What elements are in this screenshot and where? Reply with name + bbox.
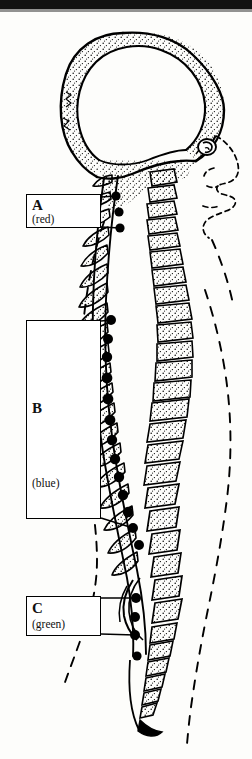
label-b-letter: B: [32, 401, 42, 416]
spinal-nerve-dot-19: [132, 651, 141, 660]
label-a-color: (red): [32, 213, 54, 225]
label-box-a[interactable]: A (red): [26, 194, 101, 228]
spinal-nerve-dot-13: [123, 507, 133, 517]
spinal-nerve-dot-1: [114, 207, 123, 216]
label-box-c[interactable]: C (green): [26, 596, 101, 636]
body-outline-front: [187, 240, 233, 744]
spinal-nerve-dot-12: [118, 490, 128, 500]
spinal-nerve-dot-15: [134, 540, 144, 550]
spinal-nerve-dot-7: [103, 394, 114, 405]
spinal-nerve-dot-17: [130, 612, 140, 622]
spinal-nerve-dot-11: [114, 472, 124, 482]
spinal-nerve-dot-6: [102, 373, 113, 384]
label-box-b[interactable]: B (blue): [26, 320, 101, 519]
label-c-color: (green): [32, 618, 65, 630]
label-b-color: (blue): [32, 477, 59, 489]
skull-cranium: [50, 25, 240, 220]
spinal-nerve-dot-8: [105, 415, 116, 426]
spinal-nerve-dot-4: [103, 334, 113, 344]
figure-canvas: A (red) B (blue) C (green): [0, 0, 252, 759]
vertebral-bodies: [144, 169, 193, 623]
label-c-letter: C: [32, 601, 43, 616]
spinal-nerve-dot-5: [102, 352, 112, 362]
spinal-nerve-dot-10: [110, 454, 120, 464]
spinal-nerve-dot-9: [107, 435, 117, 445]
label-a-letter: A: [32, 198, 43, 213]
